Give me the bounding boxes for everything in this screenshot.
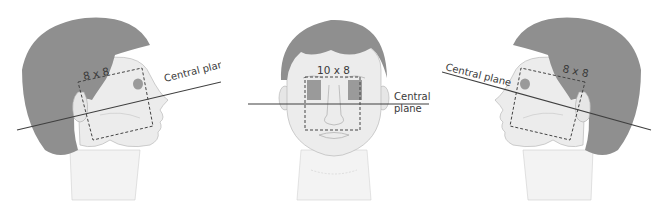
right-head-illustration: 8 x 8 Central plane bbox=[442, 0, 663, 212]
neck-shape bbox=[70, 150, 140, 200]
field-size-label: 10 x 8 bbox=[317, 64, 350, 76]
right-lateral-view: 8 x 8 Central plane bbox=[442, 0, 663, 212]
frontal-view: 10 x 8 Central plane bbox=[221, 0, 442, 212]
eye-shade bbox=[133, 79, 143, 90]
eye-shade bbox=[520, 79, 530, 90]
central-plane-label: Central plane bbox=[445, 61, 513, 88]
left-head-illustration: 8 x 8 Central plane bbox=[0, 0, 221, 212]
neck-shape bbox=[523, 150, 593, 200]
ear-shape bbox=[575, 92, 590, 122]
left-lateral-view: 8 x 8 Central plane bbox=[0, 0, 221, 212]
frontal-head-illustration: 10 x 8 Central plane bbox=[221, 0, 442, 212]
central-plane-label-line2: plane bbox=[394, 103, 422, 114]
central-plane-label-line1: Central bbox=[394, 91, 430, 102]
ear-shape bbox=[73, 92, 88, 122]
neck-shape bbox=[297, 150, 371, 200]
central-plane-label: Central plane bbox=[163, 57, 221, 84]
left-eye-shade bbox=[307, 80, 321, 100]
